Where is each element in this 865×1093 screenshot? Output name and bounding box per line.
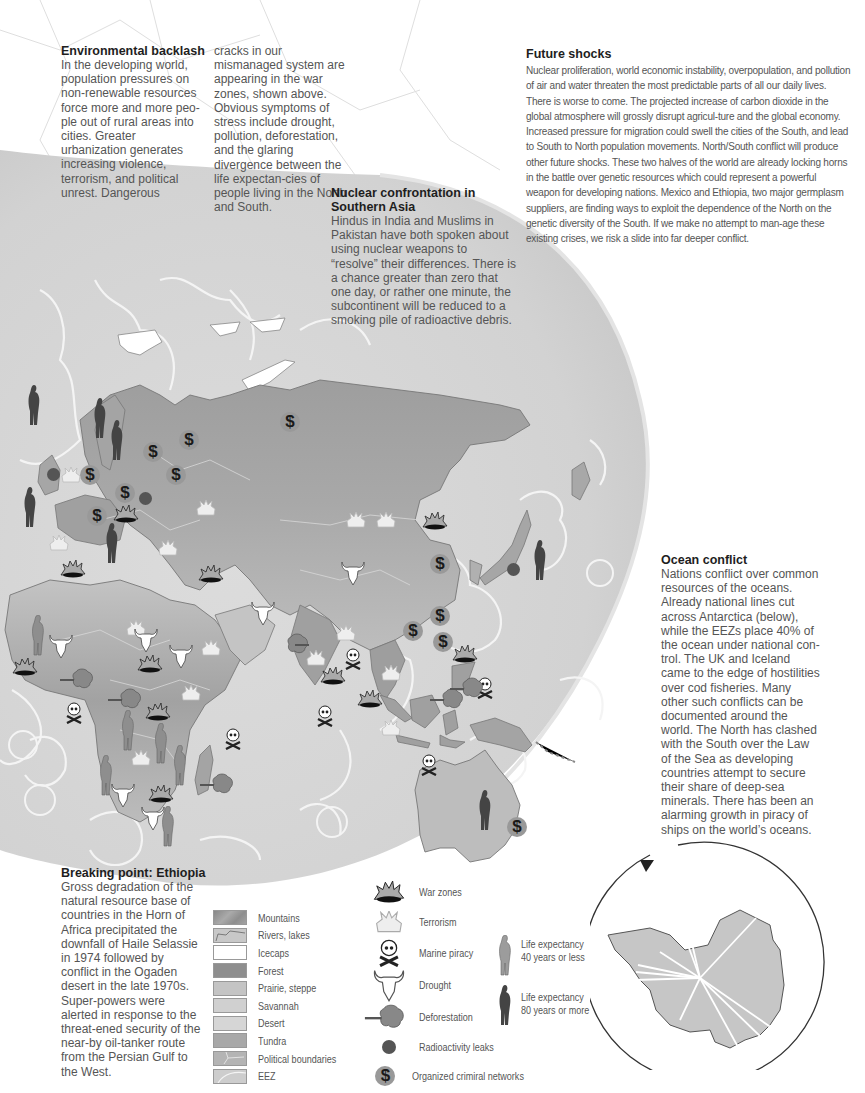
nuclear-confrontation-section: Nuclear confrontation in Southern Asia H… [331, 186, 521, 328]
war-zone-icon [60, 560, 86, 578]
legend-label: EEZ [258, 1070, 276, 1082]
dollar-icon: $ [280, 412, 300, 432]
legend-row: Terrorism [372, 907, 542, 937]
skull-crossbones-icon [372, 939, 406, 967]
war-zone-icon [12, 658, 38, 676]
terrorism-icon [195, 500, 217, 516]
bull-skull-icon [250, 600, 276, 626]
nuclear-confrontation-title-line2: Southern Asia [331, 200, 521, 214]
political-boundaries-swatch [213, 1051, 247, 1066]
life-expectancy-high-icon [22, 487, 38, 529]
dollar-icon: $ [375, 1066, 395, 1086]
bull-skull-icon [340, 560, 366, 586]
war-zone-icon [198, 565, 224, 583]
skull-crossbones-icon [224, 728, 242, 750]
dollar-icon: $ [179, 430, 199, 450]
skull-crossbones-icon [316, 705, 334, 727]
life-expectancy-low-icon [120, 710, 136, 752]
deforestation-icon [364, 1004, 406, 1030]
legend-label: War zones [419, 886, 462, 898]
radioactivity-dot-icon [507, 563, 520, 576]
dollar-icon: $ [433, 632, 453, 652]
war-zone-icon [422, 512, 448, 530]
terrorism-icon [372, 911, 406, 933]
deforestation-icon [450, 677, 484, 699]
legend-label: 40 years or less [521, 951, 585, 964]
dollar-icon: $ [166, 465, 186, 485]
dollar-icon: $ [115, 483, 135, 503]
pacific-islands [536, 742, 575, 762]
future-shocks-body: Nuclear proliferation, world economic in… [526, 63, 852, 247]
legend-label: Forest [258, 965, 284, 977]
skull-crossbones-icon [420, 754, 438, 776]
environmental-backlash-col1: In the developing world, population pres… [61, 58, 203, 200]
dollar-icon: $ [507, 817, 527, 837]
legend-row: Prairie, steppe [213, 979, 363, 997]
terrorism-icon [380, 720, 402, 736]
legend-row: $ Organized crimiral networks [372, 1061, 542, 1091]
forest-swatch [213, 963, 247, 978]
legend-row: Desert [213, 1015, 363, 1033]
legend-label: Marine piracy [419, 947, 473, 959]
radioactivity-dot-icon [47, 468, 60, 481]
antarctica-inset [590, 810, 830, 1070]
legend-label: Political boundaries [258, 1053, 336, 1065]
life-expectancy-high-icon [26, 385, 42, 427]
prairie-swatch [213, 981, 247, 996]
ocean-conflict-section: Ocean conflict Nations conflict over com… [661, 553, 821, 837]
legend-row: Forest [213, 962, 363, 980]
dollar-icon: $ [430, 554, 450, 574]
future-shocks-section: Future shocks Nuclear proliferation, wor… [526, 47, 856, 247]
dollar-icon: $ [80, 465, 100, 485]
environmental-backlash-col2-text: cracks in our mismanaged system are appe… [214, 44, 350, 214]
bull-skull-icon [48, 633, 74, 659]
deforestation-icon [200, 773, 234, 795]
legend-row: Political boundaries [213, 1050, 363, 1068]
war-zone-icon [148, 785, 174, 803]
bull-skull-icon [110, 782, 136, 808]
terrorism-icon [60, 467, 82, 483]
legend-row: Rivers, lakes [213, 927, 363, 945]
legend-row: Radioactivity leaks [372, 1033, 542, 1061]
mountains-swatch [213, 910, 247, 925]
terrorism-icon [200, 640, 222, 656]
legend-row: War zones [372, 877, 542, 907]
life-expectancy-low-icon [172, 745, 188, 787]
war-zone-icon [357, 690, 383, 708]
life-expectancy-low-icon [497, 935, 513, 977]
ocean-conflict-title: Ocean conflict [661, 553, 821, 567]
life-expectancy-high-icon [532, 540, 548, 582]
legend-label: Desert [258, 1017, 285, 1029]
terrorism-icon [130, 750, 152, 766]
life-expectancy-high-icon [104, 523, 120, 565]
legend-row: EEZ [213, 1067, 363, 1085]
bull-skull-icon [133, 627, 159, 653]
dollar-icon: $ [143, 442, 163, 462]
terrorism-icon [335, 625, 357, 641]
skull-crossbones-icon [65, 702, 83, 724]
eez-swatch [213, 1069, 247, 1084]
dollar-icon: $ [403, 621, 423, 641]
legend-row: Life expectancy 80 years or more [497, 985, 607, 1035]
ocean-conflict-body: Nations conflict over common resources o… [661, 567, 821, 837]
terrain-legend: Mountains Rivers, lakes Icecaps Forest P… [213, 909, 363, 1085]
legend-label: Rivers, lakes [258, 929, 310, 941]
life-expectancy-high-icon [497, 985, 513, 1027]
environmental-backlash-title: Environmental backlash [61, 44, 221, 58]
legend-row: Savannah [213, 997, 363, 1015]
dollar-icon: $ [430, 606, 450, 626]
rivers-swatch [213, 928, 247, 943]
environmental-backlash-col2: cracks in our mismanaged system are appe… [214, 44, 350, 214]
antarctica-map [590, 810, 830, 1070]
breaking-point-title: Breaking point: Ethiopia [61, 866, 206, 880]
legend-label: Organized crimiral networks [412, 1070, 524, 1082]
bull-skull-icon [168, 643, 194, 669]
legend-label: Radioactivity leaks [419, 1041, 494, 1053]
legend-label: Savannah [258, 1000, 299, 1012]
legend-label: 80 years or more [521, 1004, 589, 1017]
bull-skull-icon [140, 805, 166, 831]
war-zone-icon [320, 667, 346, 685]
legend-label: Life expectancy [521, 991, 589, 1004]
radioactivity-dot-icon [139, 492, 152, 505]
terrorism-icon [375, 512, 397, 528]
